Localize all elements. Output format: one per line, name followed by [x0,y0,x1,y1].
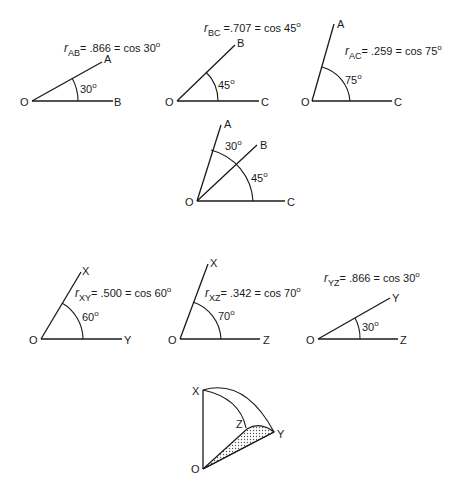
vector-oa [312,24,334,101]
origin-label: O [165,96,174,108]
vector-oy [318,298,390,339]
point-label-b: B [237,37,244,49]
point-label-x: X [82,265,90,277]
panel-yz: rYZ= .866 = cos 30o O Y Z 30o [306,270,420,346]
point-label-a: A [337,18,345,30]
panel-xz: rXZ= .342 = cos 70o O X Z 70o [168,257,301,346]
point-label-x: X [192,385,200,397]
point-label-a: A [224,118,232,130]
angle-label-45: 45o [251,170,268,184]
equation-ab: rAB= .866 = cos 30o [64,40,161,58]
point-label-z: Z [236,418,243,430]
origin-label: O [301,96,310,108]
angle-arc [62,303,83,339]
angle-label-30: 30o [225,138,242,152]
angle-arc [211,150,253,201]
point-label-y: Y [124,334,132,346]
origin-label: O [168,334,177,346]
origin-label: O [29,334,38,346]
point-label-z: Z [263,334,270,346]
origin-label: O [20,96,29,108]
angle-label: 30o [80,81,97,95]
panel-bc: rBC =.707 = cos 45o O B C 45o [165,20,301,108]
point-label-z: Z [400,334,407,346]
vector-ox [180,264,208,339]
angle-arc [206,72,218,101]
angle-label: 30o [362,319,379,333]
point-label-y: Y [392,292,400,304]
equation-xy: rXY= .500 = cos 60o [75,285,172,303]
point-label-b: B [260,139,267,151]
point-label-x: X [210,257,218,269]
panel-xy: rXY= .500 = cos 60o O X Y 60o [29,265,172,346]
equation-yz: rYZ= .866 = cos 30o [324,270,420,288]
equation-ac: rAC= .259 = cos 75o [345,43,442,61]
panel-abc: O A B C 30o 45o [185,118,295,208]
vector-ox [41,272,81,339]
angle-label: 70o [218,308,235,322]
angle-arc [72,78,78,101]
equation-xz: rXZ= .342 = cos 70o [205,285,301,303]
panel-xyz-sphere: O X Y Z [191,385,285,475]
panel-ab: rAB= .866 = cos 30o O A B 30o [20,40,161,108]
point-label-a: A [104,53,112,65]
vector-ob [177,45,235,101]
angle-label: 60o [82,309,99,323]
equation-bc: rBC =.707 = cos 45o [204,20,301,38]
angle-arc [355,318,360,339]
origin-label: O [306,334,315,346]
point-label-b: B [114,96,121,108]
origin-label: O [185,196,194,208]
point-label-y: Y [277,428,285,440]
shaded-plane-ozy [203,426,274,469]
correlation-vector-diagram: rAB= .866 = cos 30o O A B 30o rBC =.707 … [0,0,457,497]
angle-label: 75o [345,72,362,86]
point-label-c: C [261,96,269,108]
origin-label: O [191,463,200,475]
point-label-c: C [287,196,295,208]
angle-label: 45o [218,77,235,91]
point-label-c: C [394,96,402,108]
panel-ac: rAC= .259 = cos 75o O A C 75o [301,18,442,108]
angle-arc [193,302,221,339]
